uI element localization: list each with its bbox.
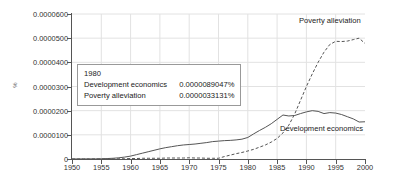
x-tick-label: 1985: [269, 163, 285, 172]
x-tick-label: 1995: [327, 163, 343, 172]
tooltip-series-value: 0.0000089047%: [179, 79, 234, 90]
tooltip-row: Poverty alleviation 0.0000033131%: [84, 90, 234, 101]
y-tick-label: 0.0000600: [12, 10, 68, 19]
x-tick-label: 1965: [152, 163, 168, 172]
y-tick-label: 0.0000500: [12, 34, 68, 43]
data-tooltip: 1980 Development economics 0.0000089047%…: [77, 64, 241, 106]
x-tick-label: 1960: [122, 163, 138, 172]
tooltip-year: 1980: [84, 68, 234, 79]
x-tick-label: 1950: [64, 163, 80, 172]
series-label-poverty-alleviation: Poverty alleviation: [299, 16, 361, 25]
y-tick-label: 0: [12, 155, 68, 164]
x-tick-label: 2000: [357, 163, 373, 172]
y-tick-label: 0.0000400: [12, 58, 68, 67]
y-axis-tick-labels: 00.00001000.00002000.00003000.00004000.0…: [8, 0, 68, 188]
series-line-development-economics: [72, 111, 365, 159]
tooltip-series-name: Development economics: [84, 79, 179, 90]
x-tick-label: 1990: [298, 163, 314, 172]
series-label-development-economics: Development economics: [280, 124, 363, 133]
ngram-chart: % 00.00001000.00002000.00003000.00004000…: [0, 0, 417, 188]
x-tick-label: 1980: [240, 163, 256, 172]
y-tick-label: 0.0000100: [12, 130, 68, 139]
x-axis-line: [71, 159, 366, 160]
y-tick-label: 0.0000300: [12, 82, 68, 91]
tooltip-table: Development economics 0.0000089047% Pove…: [84, 79, 234, 101]
x-tick-label: 1955: [93, 163, 109, 172]
tooltip-row: Development economics 0.0000089047%: [84, 79, 234, 90]
tooltip-series-name: Poverty alleviation: [84, 90, 179, 101]
x-tick-label: 1975: [210, 163, 226, 172]
y-tick-label: 0.0000200: [12, 106, 68, 115]
tooltip-series-value: 0.0000033131%: [179, 90, 234, 101]
x-tick-label: 1970: [181, 163, 197, 172]
